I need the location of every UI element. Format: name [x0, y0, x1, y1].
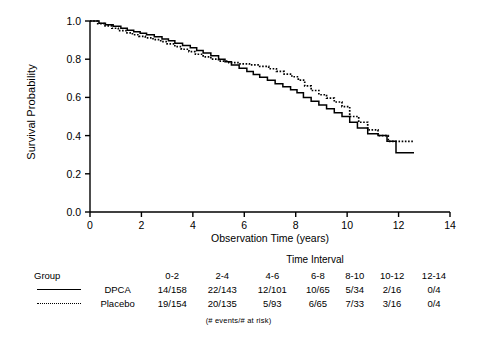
- y-tick-label: 0.4: [66, 130, 81, 142]
- risk-table-footnote: (# events/# at risk): [0, 316, 477, 325]
- survival-plot: Survival Probability 024681012140.00.20.…: [0, 0, 477, 250]
- table-row: Placebo 19/154 20/135 5/93 6/65 7/33 3/1…: [30, 296, 455, 310]
- group-header: Group: [30, 268, 147, 282]
- interval-header: 8-10: [338, 268, 371, 282]
- risk-cell: 5/93: [247, 296, 297, 310]
- axis-tick-labels: 024681012140.00.20.40.60.81.0: [66, 15, 456, 231]
- figure-root: Survival Probability 024681012140.00.20.…: [0, 0, 477, 343]
- risk-cell: 0/4: [413, 296, 455, 310]
- risk-cell: 7/33: [338, 296, 371, 310]
- x-axis-label: Observation Time (years): [90, 232, 450, 244]
- table-row: DPCA 14/158 22/143 12/101 10/65 5/34 2/1…: [30, 282, 455, 296]
- interval-header: 12-14: [413, 268, 455, 282]
- risk-cell: 22/143: [197, 282, 247, 296]
- risk-cell: 0/4: [413, 282, 455, 296]
- x-tick-label: 8: [293, 219, 299, 231]
- risk-cell: 20/135: [197, 296, 247, 310]
- group-label-placebo: Placebo: [88, 296, 147, 310]
- risk-cell: 5/34: [338, 282, 371, 296]
- risk-cell: 3/16: [371, 296, 413, 310]
- group-label-dpca: DPCA: [88, 282, 147, 296]
- risk-table-area: Time Interval Group 0-2 2-4 4-6 6-8 8-10…: [0, 250, 477, 343]
- survival-curve-placebo: [90, 21, 414, 141]
- legend-key-dpca: [30, 282, 88, 296]
- legend-key-placebo: [30, 296, 88, 310]
- interval-header: 0-2: [147, 268, 197, 282]
- x-tick-label: 4: [190, 219, 196, 231]
- km-curves-svg: 024681012140.00.20.40.60.81.0: [0, 0, 477, 250]
- x-tick-label: 0: [87, 219, 93, 231]
- curve-group: [90, 21, 414, 153]
- interval-header: 6-8: [297, 268, 338, 282]
- interval-header: 10-12: [371, 268, 413, 282]
- risk-cell: 14/158: [147, 282, 197, 296]
- axis-ticks: [85, 21, 450, 217]
- interval-header: 4-6: [247, 268, 297, 282]
- x-tick-label: 12: [393, 219, 405, 231]
- y-tick-label: 1.0: [66, 15, 81, 27]
- y-tick-label: 0.8: [66, 53, 81, 65]
- x-tick-label: 6: [241, 219, 247, 231]
- risk-table: Group 0-2 2-4 4-6 6-8 8-10 10-12 12-14 D…: [30, 268, 455, 310]
- risk-cell: 19/154: [147, 296, 197, 310]
- x-tick-label: 10: [341, 219, 353, 231]
- y-tick-label: 0.6: [66, 91, 81, 103]
- solid-line-icon: [37, 289, 81, 290]
- x-tick-label: 2: [139, 219, 145, 231]
- risk-table-header-row: Group 0-2 2-4 4-6 6-8 8-10 10-12 12-14: [30, 268, 455, 282]
- y-tick-label: 0.2: [66, 168, 81, 180]
- risk-cell: 2/16: [371, 282, 413, 296]
- risk-cell: 6/65: [297, 296, 338, 310]
- risk-cell: 12/101: [247, 282, 297, 296]
- y-tick-label: 0.0: [66, 206, 81, 218]
- x-tick-label: 14: [444, 219, 456, 231]
- dotted-line-icon: [37, 303, 81, 304]
- risk-cell: 10/65: [297, 282, 338, 296]
- interval-header: 2-4: [197, 268, 247, 282]
- time-interval-header: Time Interval: [170, 254, 460, 265]
- survival-curve-dpca: [90, 21, 414, 153]
